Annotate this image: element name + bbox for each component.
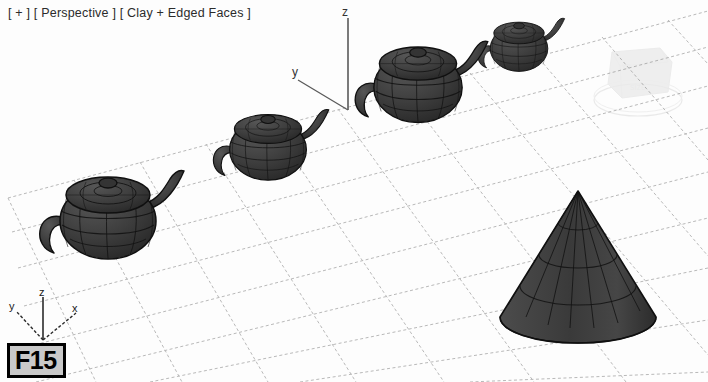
teapot-4-far[interactable]: [478, 18, 565, 71]
axis-tripod: z y x: [9, 286, 78, 340]
world-gizmo-z-label: z: [342, 5, 348, 19]
viewport-label[interactable]: [ + ] [ Perspective ] [ Clay + Edged Fac…: [8, 6, 251, 20]
svg-text:size: size: [630, 82, 646, 92]
teapot-3[interactable]: [355, 41, 488, 122]
world-axis-gizmo: z y: [292, 5, 348, 110]
world-gizmo-y-label: y: [292, 65, 298, 79]
tripod-z-label: z: [39, 286, 45, 298]
tripod-y-label: y: [9, 300, 15, 312]
tripod-x-label: x: [72, 302, 78, 314]
perspective-viewport[interactable]: z y vp size: [0, 0, 708, 382]
svg-text:vp: vp: [622, 61, 631, 70]
cone[interactable]: [500, 191, 656, 343]
teapot-2[interactable]: [213, 109, 328, 180]
ghost-object: vp size: [594, 48, 682, 116]
figure-label: F15: [7, 343, 66, 378]
viewport-canvas[interactable]: z y vp size: [0, 0, 708, 382]
